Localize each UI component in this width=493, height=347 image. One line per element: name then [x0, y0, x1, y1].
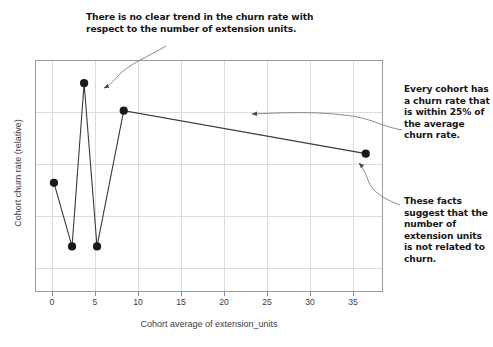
xtick-label: 15: [166, 297, 196, 307]
gridline-vertical: [181, 61, 182, 291]
xtick-mark: [95, 292, 96, 296]
annotation-no-trend: There is no clear trend in the churn rat…: [86, 12, 336, 35]
gridline-vertical: [224, 61, 225, 291]
x-axis-title: Cohort average of extension_units: [35, 319, 383, 329]
gridline-vertical: [310, 61, 311, 291]
gridline-horizontal: [36, 164, 382, 165]
xtick-label: 0: [37, 297, 67, 307]
xtick-label: 35: [338, 297, 368, 307]
xtick-mark: [52, 292, 53, 296]
xtick-label: 25: [252, 297, 282, 307]
gridline-vertical: [267, 61, 268, 291]
gridline-horizontal: [36, 268, 382, 269]
annotation-within-25-percent: Every cohort has a churn rate that is wi…: [404, 84, 490, 142]
gridline-horizontal: [36, 216, 382, 217]
chart-figure: There is no clear trend in the churn rat…: [0, 0, 493, 347]
y-axis-title: Cohort churn rate (relative): [13, 93, 23, 253]
xtick-mark: [267, 292, 268, 296]
gridline-vertical: [138, 61, 139, 291]
xtick-mark: [138, 292, 139, 296]
xtick-label: 30: [295, 297, 325, 307]
xtick-mark: [181, 292, 182, 296]
xtick-label: 10: [123, 297, 153, 307]
xtick-mark: [353, 292, 354, 296]
xtick-mark: [224, 292, 225, 296]
plot-area: [35, 60, 383, 292]
gridline-horizontal: [36, 112, 382, 113]
gridline-vertical: [52, 61, 53, 291]
xtick-mark: [310, 292, 311, 296]
gridline-vertical: [95, 61, 96, 291]
annotation-not-related: These facts suggest that the number of e…: [404, 196, 488, 266]
gridline-vertical: [353, 61, 354, 291]
xtick-label: 5: [80, 297, 110, 307]
xtick-label: 20: [209, 297, 239, 307]
